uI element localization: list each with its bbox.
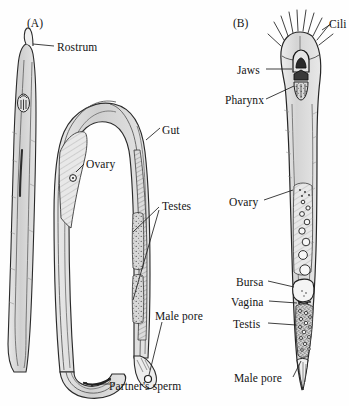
bursa-sac <box>293 279 314 302</box>
label-gut: Gut <box>162 124 180 136</box>
label-rostrum: Rostrum <box>57 41 97 53</box>
testis-a-upper <box>132 213 144 270</box>
label-partners-sperm: Partner's sperm <box>109 380 181 392</box>
testis-b-region <box>296 304 313 358</box>
label-bursa: Bursa <box>236 276 263 288</box>
panel-a-identifier: (A) <box>27 17 43 29</box>
label-cilia: Cili <box>329 18 347 30</box>
figure-canvas: (A) (B) Rostrum Gut Ovary Testes Male po… <box>0 0 349 406</box>
label-testes: Testes <box>162 200 191 212</box>
label-pharynx: Pharynx <box>225 94 264 106</box>
ovary-b-region <box>293 183 312 275</box>
label-ovary-b: Ovary <box>229 196 258 208</box>
label-male-pore-a: Male pore <box>155 310 203 322</box>
label-male-pore-b: Male pore <box>234 372 282 384</box>
panel-b-identifier: (B) <box>233 17 248 29</box>
label-testis: Testis <box>233 318 260 330</box>
label-jaws: Jaws <box>237 64 260 76</box>
ovary-a-oocyte-nucleus <box>72 177 74 179</box>
label-ovary-a: Ovary <box>86 158 115 170</box>
label-vagina: Vagina <box>231 296 264 308</box>
